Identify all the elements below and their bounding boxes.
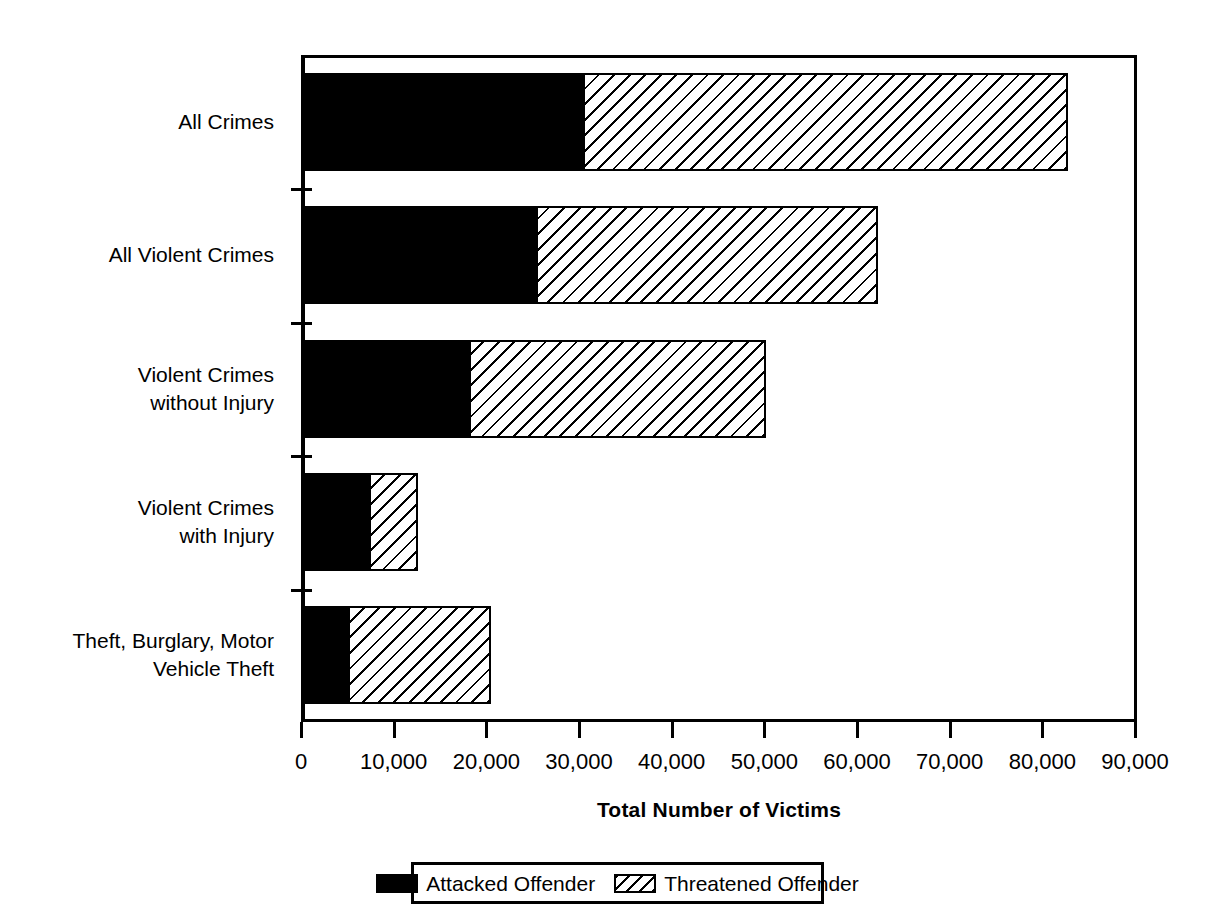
x-axis-tick — [949, 722, 952, 738]
category-label-line: with Injury — [20, 522, 274, 550]
x-axis-tick — [763, 722, 766, 738]
x-axis-tick — [1134, 722, 1137, 738]
legend-item[interactable]: Attacked Offender — [376, 873, 595, 894]
bar-segment-threatened — [471, 340, 767, 438]
x-axis-tick — [393, 722, 396, 738]
category-label-line: Violent Crimes — [20, 494, 274, 522]
category-label-line: All Crimes — [20, 108, 274, 136]
x-axis-tick — [856, 722, 859, 738]
x-axis-tick — [671, 722, 674, 738]
x-axis-tick-label: 80,000 — [1009, 749, 1076, 775]
category-label: Violent Crimeswith Injury — [20, 494, 274, 550]
x-axis-title: Total Number of Victims — [301, 798, 1137, 822]
y-axis-tick — [291, 322, 312, 325]
x-axis-tick-label: 10,000 — [360, 749, 427, 775]
x-axis-tick — [1041, 722, 1044, 738]
category-label-line: All Violent Crimes — [20, 241, 274, 269]
x-axis-tick-label: 0 — [295, 749, 307, 775]
category-label-line: without Injury — [20, 389, 274, 417]
diagonal-hatch-swatch — [614, 874, 656, 893]
bar-row — [303, 73, 1137, 171]
bar-row — [303, 206, 1137, 304]
x-axis-tick — [300, 722, 303, 738]
category-label-line: Violent Crimes — [20, 361, 274, 389]
y-axis-tick — [291, 188, 312, 191]
bar-segment-attacked — [303, 473, 371, 571]
x-axis-tick-label: 90,000 — [1101, 749, 1168, 775]
x-axis-tick-label: 60,000 — [823, 749, 890, 775]
chart-legend: Attacked OffenderThreatened Offender — [411, 862, 824, 904]
bar-segment-threatened — [371, 473, 418, 571]
y-axis-tick — [291, 455, 312, 458]
category-axis-labels: All CrimesAll Violent CrimesViolent Crim… — [20, 55, 288, 722]
bar-segment-attacked — [303, 73, 585, 171]
x-axis-tick-label: 20,000 — [453, 749, 520, 775]
solid-black-swatch — [376, 874, 418, 893]
legend-label: Threatened Offender — [664, 873, 859, 894]
category-label: All Violent Crimes — [20, 241, 274, 269]
category-label: All Crimes — [20, 108, 274, 136]
bar-segment-threatened — [538, 206, 878, 304]
bar-row — [303, 340, 1137, 438]
legend-label: Attacked Offender — [426, 873, 595, 894]
bar-segment-threatened — [350, 606, 491, 704]
bar-row — [303, 473, 1137, 571]
bars-layer — [303, 55, 1137, 722]
x-axis-tick-label: 40,000 — [638, 749, 705, 775]
bar-row — [303, 606, 1137, 704]
x-axis-tick — [485, 722, 488, 738]
bar-segment-attacked — [303, 206, 538, 304]
x-axis-tick-label: 30,000 — [545, 749, 612, 775]
bar-segment-attacked — [303, 606, 350, 704]
legend-item[interactable]: Threatened Offender — [614, 873, 859, 894]
y-axis-tick — [291, 589, 312, 592]
category-label-line: Vehicle Theft — [20, 655, 274, 683]
x-axis-tick-label: 50,000 — [731, 749, 798, 775]
bar-segment-attacked — [303, 340, 471, 438]
bar-segment-threatened — [585, 73, 1069, 171]
bar-chart: All CrimesAll Violent CrimesViolent Crim… — [0, 0, 1232, 923]
x-axis-tick — [578, 722, 581, 738]
category-label: Violent Crimeswithout Injury — [20, 361, 274, 417]
x-axis-ticks: 010,00020,00030,00040,00050,00060,00070,… — [0, 722, 1232, 782]
category-label: Theft, Burglary, MotorVehicle Theft — [20, 627, 274, 683]
x-axis-tick-label: 70,000 — [916, 749, 983, 775]
category-label-line: Theft, Burglary, Motor — [20, 627, 274, 655]
